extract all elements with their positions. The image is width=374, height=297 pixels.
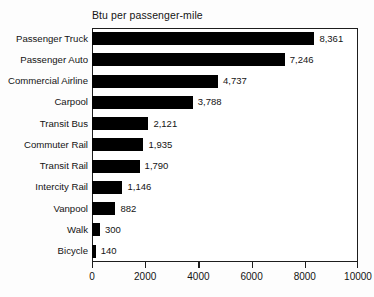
bar-value-label: 8,361 <box>319 32 343 46</box>
bar <box>92 32 314 45</box>
x-tick-mark <box>357 262 358 268</box>
bar <box>92 223 100 236</box>
x-tick-label: 8000 <box>294 270 316 283</box>
bar-row: 1,146 <box>92 177 358 198</box>
x-tick-label: 4000 <box>187 270 209 283</box>
bar-row: 8,361 <box>92 28 358 49</box>
bar-row: 7,246 <box>92 49 358 70</box>
bar-row: 1,790 <box>92 156 358 177</box>
bar <box>92 96 193 109</box>
x-tick-mark <box>198 262 199 268</box>
bar <box>92 202 115 215</box>
category-label: Vanpool <box>0 202 88 215</box>
bar-value-label: 4,737 <box>223 74 247 88</box>
x-tick-label: 6000 <box>240 270 262 283</box>
bar <box>92 160 140 173</box>
category-label: Transit Rail <box>0 159 88 172</box>
bar-value-label: 7,246 <box>290 53 314 67</box>
bar <box>92 75 218 88</box>
bar <box>92 245 96 258</box>
category-label: Commercial Airline <box>0 74 88 87</box>
bar-value-label: 1,935 <box>148 138 172 152</box>
bar-value-label: 1,146 <box>127 180 151 194</box>
bar-chart: Btu per passenger-mile Passenger TruckPa… <box>0 0 374 297</box>
bar <box>92 117 148 130</box>
x-tick-label: 2000 <box>134 270 156 283</box>
bar-row: 300 <box>92 219 358 240</box>
category-label: Passenger Auto <box>0 53 88 66</box>
bar-value-label: 3,788 <box>198 95 222 109</box>
x-tick-label: 0 <box>89 270 95 283</box>
bar-value-label: 2,121 <box>153 117 177 131</box>
category-label: Intercity Rail <box>0 180 88 193</box>
category-label: Transit Bus <box>0 117 88 130</box>
x-tick-mark <box>305 262 306 268</box>
bar-value-label: 882 <box>120 202 136 216</box>
x-tick-mark <box>92 262 93 268</box>
category-label: Passenger Truck <box>0 32 88 45</box>
bar <box>92 181 122 194</box>
bar-row: 140 <box>92 241 358 262</box>
category-label: Carpool <box>0 95 88 108</box>
category-label: Bicycle <box>0 244 88 257</box>
category-label: Walk <box>0 223 88 236</box>
bar-value-label: 1,790 <box>145 159 169 173</box>
bar-value-label: 300 <box>105 223 121 237</box>
bar <box>92 53 285 66</box>
bar-row: 3,788 <box>92 92 358 113</box>
bar-row: 2,121 <box>92 113 358 134</box>
bar <box>92 138 143 151</box>
category-axis: Passenger TruckPassenger AutoCommercial … <box>0 28 88 262</box>
x-tick-mark <box>252 262 253 268</box>
bar-row: 4,737 <box>92 71 358 92</box>
category-label: Commuter Rail <box>0 138 88 151</box>
bars-layer: 8,3617,2464,7373,7882,1211,9351,7901,146… <box>92 28 358 262</box>
x-tick-mark <box>145 262 146 268</box>
bar-row: 882 <box>92 198 358 219</box>
x-tick-label: 10000 <box>344 270 372 283</box>
chart-title: Btu per passenger-mile <box>92 9 203 22</box>
x-axis: 0200040006000800010000 <box>92 262 358 297</box>
bar-row: 1,935 <box>92 134 358 155</box>
bar-value-label: 140 <box>101 244 117 258</box>
